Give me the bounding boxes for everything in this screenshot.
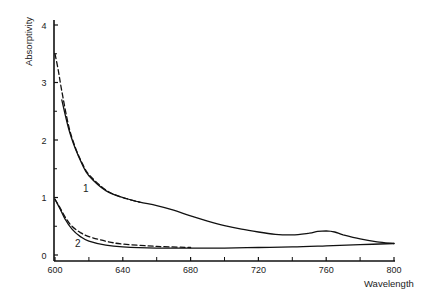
curve-2-label: 2 <box>75 238 81 249</box>
y-tick-label: 4 <box>41 21 46 31</box>
absorptivity-chart: 01234 600640680720760800 Absorptivity Wa… <box>0 0 422 305</box>
x-tick-label: 760 <box>319 265 334 275</box>
chart-background <box>0 0 422 305</box>
y-axis-title: Absorptivity <box>23 17 34 66</box>
x-tick-label: 720 <box>251 265 266 275</box>
x-axis-title: Wavelength <box>364 278 414 289</box>
x-tick-label: 680 <box>183 265 198 275</box>
x-tick-label: 640 <box>115 265 130 275</box>
x-tick-label: 600 <box>47 265 62 275</box>
curve-1-label: 1 <box>83 183 89 194</box>
y-tick-label: 1 <box>41 193 46 203</box>
y-tick-label: 3 <box>41 78 46 88</box>
y-tick-label: 2 <box>41 136 46 146</box>
x-tick-label: 800 <box>386 265 401 275</box>
y-tick-label: 0 <box>41 251 46 261</box>
